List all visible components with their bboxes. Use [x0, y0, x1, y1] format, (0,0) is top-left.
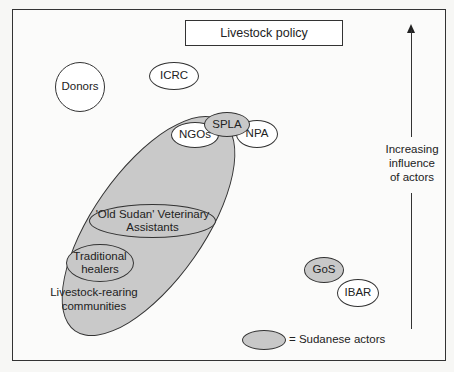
ibar-node: IBAR [337, 279, 379, 307]
gos-node: GoS [304, 257, 344, 283]
donors-label: Donors [61, 80, 98, 93]
spla-node: SPLA [204, 112, 250, 137]
traditional-healers-node: Traditionalhealers [66, 244, 134, 282]
influence-arrow-shaft [411, 30, 412, 137]
donors-node: Donors [55, 62, 105, 112]
influence-axis-label: Increasinginfluenceof actors [372, 143, 452, 184]
influence-arrow-shaft-lower [411, 193, 412, 329]
ibar-label: IBAR [345, 286, 372, 299]
veterinary-assistants-node: 'Old Sudan' VeterinaryAssistants [89, 204, 216, 238]
icrc-node: ICRC [149, 62, 199, 90]
spla-label: SPLA [212, 118, 241, 131]
legend-sudanese-swatch [242, 330, 286, 350]
legend-label: = Sudanese actors [289, 333, 385, 347]
title-label: Livestock policy [220, 26, 308, 40]
vet-label: 'Old Sudan' VeterinaryAssistants [96, 208, 210, 234]
healers-label: Traditionalhealers [73, 250, 126, 276]
npa-label: NPA [246, 127, 269, 140]
livestock-policy-box: Livestock policy [185, 20, 343, 46]
gos-label: GoS [312, 263, 335, 276]
icrc-label: ICRC [160, 69, 188, 82]
communities-label: Livestock-rearingcommunities [44, 286, 144, 314]
